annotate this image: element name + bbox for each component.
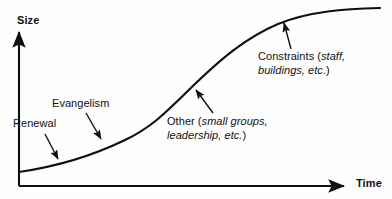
annotation-other-lead: Other ( bbox=[167, 115, 202, 127]
renewal-leader-arrow bbox=[45, 134, 58, 159]
constraints-leader-arrow bbox=[284, 23, 291, 49]
annotation-constraints-lead: Constraints ( bbox=[258, 50, 321, 62]
x-axis-label: Time bbox=[356, 177, 382, 189]
other-leader-arrow bbox=[196, 90, 213, 113]
growth-curve bbox=[19, 8, 380, 172]
annotation-other-italic-line2: leadership, etc. bbox=[167, 129, 242, 141]
annotation-constraints: Constraints (staff,buildings, etc.) bbox=[258, 50, 345, 77]
growth-curve-figure: Size Time Renewal Evangelism Other (smal… bbox=[0, 0, 392, 199]
annotation-evangelism: Evangelism bbox=[52, 97, 109, 111]
annotation-other-tail: ) bbox=[242, 129, 246, 141]
y-axis-label: Size bbox=[17, 14, 39, 26]
annotation-renewal-text: Renewal bbox=[13, 117, 56, 129]
annotation-constraints-italic-line2: buildings, etc. bbox=[258, 64, 326, 76]
annotation-other-italic-line1: small groups, bbox=[202, 115, 268, 127]
evangelism-leader-arrow bbox=[86, 113, 101, 139]
annotation-other: Other (small groups,leadership, etc.) bbox=[167, 115, 268, 142]
annotation-evangelism-text: Evangelism bbox=[52, 97, 109, 109]
annotation-constraints-tail: ) bbox=[326, 64, 330, 76]
annotation-constraints-italic-line1: staff, bbox=[321, 50, 345, 62]
annotation-renewal: Renewal bbox=[13, 117, 56, 131]
